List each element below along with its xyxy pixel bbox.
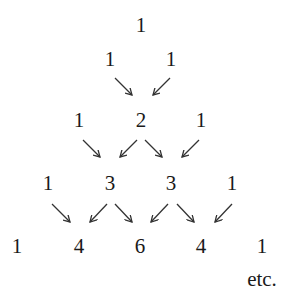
arrow-down-left-icon xyxy=(153,78,170,95)
arrow-down-right-icon xyxy=(52,204,70,222)
arrow-down-right-icon xyxy=(115,204,132,222)
arrow-down-left-icon xyxy=(90,204,107,222)
arrow-down-left-icon xyxy=(215,204,232,222)
arrow-down-left-icon xyxy=(182,140,199,157)
arrow-down-right-icon xyxy=(115,78,132,95)
arrow-down-left-icon xyxy=(120,140,137,157)
arrow-down-left-icon xyxy=(151,204,168,222)
arrows-layer xyxy=(0,0,291,304)
arrow-down-right-icon xyxy=(145,140,162,157)
arrow-down-right-icon xyxy=(177,204,194,222)
arrow-down-right-icon xyxy=(83,140,100,157)
